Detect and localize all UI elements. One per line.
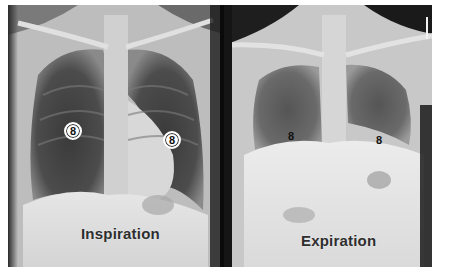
expiration-xray-image: [224, 5, 440, 267]
inspiration-label: Inspiration: [81, 225, 160, 242]
rib-marker-right-lung: 8: [284, 129, 298, 143]
rib-marker-left-lung: 8: [372, 133, 386, 147]
rib-marker-left-lung: 8: [163, 131, 181, 149]
rib-marker-right-lung: 8: [64, 122, 82, 140]
expiration-xray-panel: 8 8 Expiration: [224, 5, 440, 267]
expiration-label: Expiration: [301, 232, 376, 249]
inspiration-xray-panel: 8 8 Inspiration: [8, 5, 220, 267]
